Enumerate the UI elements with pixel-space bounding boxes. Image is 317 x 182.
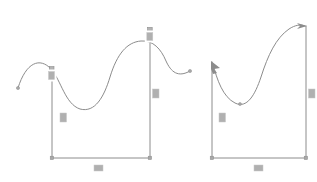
vector-drawing[interactable] <box>0 0 317 182</box>
right-shape-corner-bottom-left[interactable] <box>210 156 213 159</box>
left-shape-curve-end-point[interactable] <box>188 69 191 72</box>
left-shape-dimension-label-bottom[interactable] <box>94 165 103 171</box>
sketch-canvas[interactable] <box>0 0 317 182</box>
right-shape-dimension-label-bottom[interactable] <box>254 165 263 171</box>
right-shape-arrowhead-start[interactable] <box>211 61 220 74</box>
right-shape-curve-mid-point[interactable] <box>239 103 242 106</box>
right-shape-corner-bottom-right[interactable] <box>304 156 307 159</box>
left-shape-curve-start-point[interactable] <box>16 86 19 89</box>
left-shape-top-curve[interactable] <box>18 41 190 110</box>
left-shape-dimension-label-right-vertical[interactable] <box>153 89 160 98</box>
left-shape-group[interactable] <box>16 27 191 171</box>
left-shape-node-label-left[interactable] <box>49 72 55 80</box>
left-shape-corner-bottom-left[interactable] <box>50 156 53 159</box>
left-shape-corner-bottom-right[interactable] <box>148 156 151 159</box>
left-shape-dimension-label-left-vertical[interactable] <box>60 113 67 122</box>
left-shape-node-label-right[interactable] <box>147 33 153 41</box>
right-shape-group[interactable] <box>210 23 315 171</box>
right-shape-top-curve[interactable] <box>213 25 305 104</box>
right-shape-dimension-label-left-vertical[interactable] <box>219 113 226 122</box>
right-shape-dimension-label-right-vertical[interactable] <box>309 89 316 98</box>
